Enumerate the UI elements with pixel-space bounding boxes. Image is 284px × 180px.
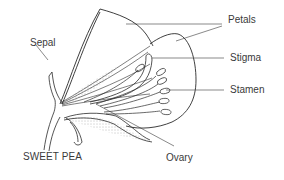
label-petals: Petals	[228, 15, 256, 25]
label-stamen: Stamen	[230, 85, 264, 95]
label-ovary: Ovary	[166, 153, 193, 163]
stem	[44, 112, 60, 151]
sweet-pea-diagram: Sepal Petals Stigma Stamen Ovary SWEET P…	[0, 0, 284, 180]
label-stigma: Stigma	[230, 53, 261, 63]
diagram-title: SWEET PEA	[23, 152, 82, 162]
petal-stipple	[62, 66, 118, 106]
label-sepal: Sepal	[30, 38, 56, 48]
petal-wing	[126, 34, 196, 128]
sepal-shape	[49, 72, 62, 112]
leader-petals-2	[176, 26, 222, 41]
stamens	[84, 63, 171, 115]
petal-upper	[60, 9, 153, 104]
